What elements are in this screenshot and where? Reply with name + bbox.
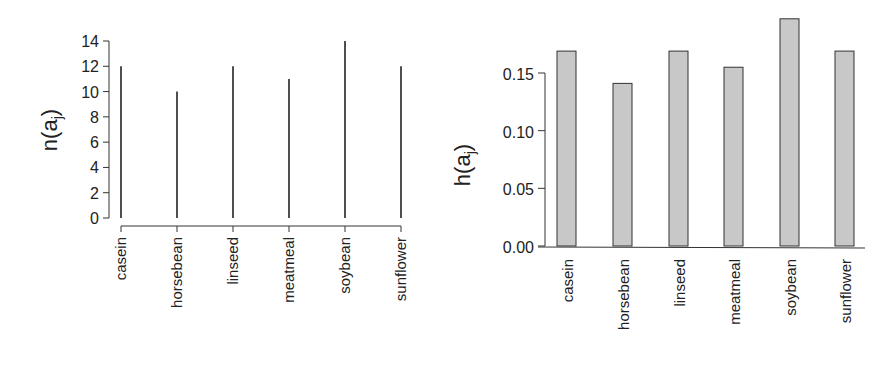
figure: n(aj) 02468101214 caseinhorsebeanlinseed…: [0, 0, 885, 376]
y-tick-label: 0.05: [503, 181, 534, 198]
x-tick-label: horsebean: [168, 237, 185, 308]
x-tick-label: casein: [112, 237, 129, 280]
y-axis-label: n(aj): [37, 109, 65, 151]
proportion-bar-chart: h(aj) 0.000.050.100.15 caseinhorsebeanli…: [450, 19, 865, 330]
y-axis: 02468101214: [81, 33, 109, 227]
count-needle-chart: n(aj) 02468101214 caseinhorsebeanlinseed…: [37, 33, 409, 308]
y-tick-label: 2: [90, 185, 99, 202]
bar-soybean: [780, 19, 799, 246]
y-tick-label: 12: [81, 58, 99, 75]
x-tick-label: linseed: [671, 259, 688, 307]
y-tick-label: 4: [90, 159, 99, 176]
y-axis: 0.000.050.100.15: [503, 66, 545, 256]
x-tick-label: meatmeal: [726, 259, 743, 325]
x-tick-label: linseed: [224, 237, 241, 285]
x-tick-label: soybean: [782, 259, 799, 316]
bars: [557, 19, 854, 246]
bar-linseed: [669, 51, 688, 246]
x-tick-label: meatmeal: [280, 237, 297, 303]
x-axis: caseinhorsebeanlinseedmeatmealsoybeansun…: [112, 226, 409, 308]
y-tick-label: 8: [90, 109, 99, 126]
y-tick-label: 0.15: [503, 66, 534, 83]
x-tick-label: sunflower: [837, 259, 854, 323]
y-tick-label: 0.00: [503, 239, 534, 256]
y-tick-label: 0: [90, 210, 99, 227]
bar-meatmeal: [724, 67, 743, 246]
y-tick-label: 14: [81, 33, 99, 50]
x-tick-label: soybean: [336, 237, 353, 294]
y-tick-label: 6: [90, 134, 99, 151]
x-tick-label: casein: [559, 259, 576, 302]
y-axis-label: h(aj): [450, 144, 478, 186]
x-tick-label: sunflower: [392, 237, 409, 301]
bar-casein: [557, 51, 576, 246]
y-tick-label: 10: [81, 84, 99, 101]
x-axis: caseinhorsebeanlinseedmeatmealsoybeansun…: [538, 247, 865, 330]
x-tick-label: horsebean: [615, 259, 632, 330]
needles: [121, 41, 401, 218]
y-tick-label: 0.10: [503, 124, 534, 141]
bar-sunflower: [835, 51, 854, 246]
bar-horsebean: [613, 83, 632, 246]
